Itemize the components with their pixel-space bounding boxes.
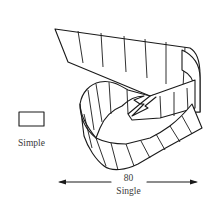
arrow-left-icon [58, 180, 66, 185]
arrow-right-icon [190, 180, 198, 185]
single-label: Single [116, 186, 140, 196]
single-ribbon [55, 29, 202, 170]
single-value: 80 [124, 173, 134, 183]
simple-rectangle [19, 112, 44, 126]
diagram-canvas: Simple 80 Single [0, 0, 217, 205]
simple-label: Simple [18, 138, 45, 148]
